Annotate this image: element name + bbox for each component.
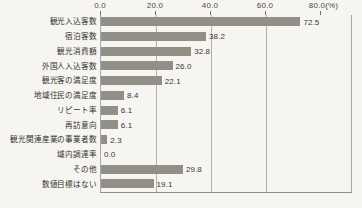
x-axis-tick-labels: 0.020.040.060.080.0(%) [0,0,362,16]
bar [101,106,118,115]
bar [101,179,154,188]
x-axis-tick-label: 60.0 [257,1,273,10]
bar-row: 再訪意向6.1 [0,118,362,133]
bar-value-label: 6.1 [121,105,132,116]
bar-row: 域内調達率0.0 [0,148,362,163]
bar-value-label: 6.1 [121,120,132,131]
bar-value-label: 72.5 [303,17,319,28]
category-label: その他 [0,165,97,175]
bar [101,61,173,70]
bar-value-label: 2.3 [110,135,121,146]
bar-value-label: 29.8 [186,164,202,175]
category-label: 再訪意向 [0,121,97,131]
x-axis-tick-label: 40.0 [202,1,218,10]
category-label: 数値目標はない [0,180,97,190]
category-label: 外国人入込客数 [0,62,97,72]
bar-row: 観光消費額32.8 [0,45,362,60]
bar-row: 宿泊客数38.2 [0,30,362,45]
bar-row: リピート率6.1 [0,104,362,119]
bar-value-label: 38.2 [209,31,225,42]
bar [101,120,118,129]
bar [101,47,191,56]
x-axis-tick-label: 80.0(%) [309,1,338,10]
bar [101,32,206,41]
bar-chart: 0.020.040.060.080.0(%) 観光入込客数72.5宿泊客数38.… [0,0,362,208]
bar [101,165,183,174]
bar-row: 外国人入込客数26.0 [0,59,362,74]
category-label: 観光関連産業の事業者数 [0,135,97,145]
bar-row: 観光関連産業の事業者数2.3 [0,133,362,148]
bar-value-label: 22.1 [165,76,181,87]
bar [101,91,124,100]
bar-row: 数値目標はない19.1 [0,177,362,192]
bar-row: その他29.8 [0,163,362,178]
bar [101,17,300,26]
bar-row: 観光客の満足度22.1 [0,74,362,89]
x-axis-tick-label: 0.0 [94,1,106,10]
bar [101,76,162,85]
bar-value-label: 19.1 [157,179,173,190]
category-label: 域内調達率 [0,150,97,160]
category-label: 地域住民の満足度 [0,91,97,101]
category-label: 観光消費額 [0,47,97,57]
category-label: 宿泊客数 [0,32,97,42]
bar-rows: 観光入込客数72.5宿泊客数38.2観光消費額32.8外国人入込客数26.0観光… [0,15,362,193]
x-axis-tick-label: 20.0 [147,1,163,10]
category-label: リピート率 [0,106,97,116]
category-label: 観光客の満足度 [0,76,97,86]
bar-value-label: 0.0 [104,149,115,160]
bar-value-label: 32.8 [194,46,210,57]
bar [101,135,107,144]
bar-value-label: 26.0 [176,61,192,72]
bar-row: 観光入込客数72.5 [0,15,362,30]
category-label: 観光入込客数 [0,17,97,27]
bar-row: 地域住民の満足度8.4 [0,89,362,104]
bar-value-label: 8.4 [127,90,138,101]
